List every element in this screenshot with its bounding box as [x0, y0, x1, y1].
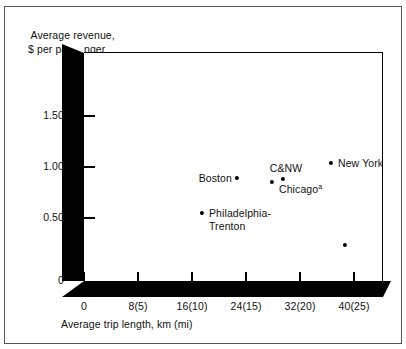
data-label-chicago-text: Chicago: [279, 183, 318, 195]
y-axis-wall-bevel: [62, 44, 84, 53]
x-tick-label-32: 32(20): [285, 300, 316, 312]
x-axis-bar: [62, 281, 391, 297]
data-label-chicago-footnote: a: [318, 183, 322, 190]
x-axis-title: Average trip length, km (mi): [61, 318, 193, 330]
y-tick-label-1-50: 1.50: [30, 109, 64, 121]
data-label-cnw: C&NW: [270, 162, 302, 175]
data-label-chicago: Chicagoa: [279, 183, 322, 196]
x-tick-mark-0: [83, 272, 85, 281]
x-tick-label-0: 0: [81, 300, 87, 312]
x-tick-label-8: 8(5): [128, 300, 147, 312]
x-tick-mark-8: [137, 272, 139, 281]
x-tick-label-16: 16(10): [177, 300, 208, 312]
x-axis-bar-bevel-right: [383, 281, 391, 297]
data-label-boston: Boston: [199, 172, 232, 185]
x-axis-bar-bevel-left: [62, 281, 84, 297]
x-tick-label-40: 40(25): [339, 300, 370, 312]
y-tick-mark-1-00: [84, 166, 95, 168]
x-tick-mark-16: [191, 272, 193, 281]
data-label-new-york: New York: [338, 157, 383, 170]
y-axis-title-line1: Average revenue,: [31, 29, 115, 41]
y-tick-label-0-50: 0.50: [30, 211, 64, 223]
chart-figure: Average revenue,$ per passenger 1.50 1.0…: [0, 0, 406, 349]
y-tick-mark-0-50: [84, 217, 95, 219]
x-tick-mark-40: [353, 272, 355, 281]
y-tick-label-1-00: 1.00: [30, 160, 64, 172]
data-label-philadelphia-trenton: Philadelphia- Trenton: [209, 207, 271, 232]
y-tick-mark-1-50: [84, 115, 95, 117]
x-tick-mark-32: [299, 272, 301, 281]
y-tick-label-0: 0: [30, 274, 64, 286]
x-tick-label-24: 24(15): [231, 300, 262, 312]
y-axis-wall: [62, 44, 84, 281]
x-tick-mark-24: [245, 272, 247, 281]
